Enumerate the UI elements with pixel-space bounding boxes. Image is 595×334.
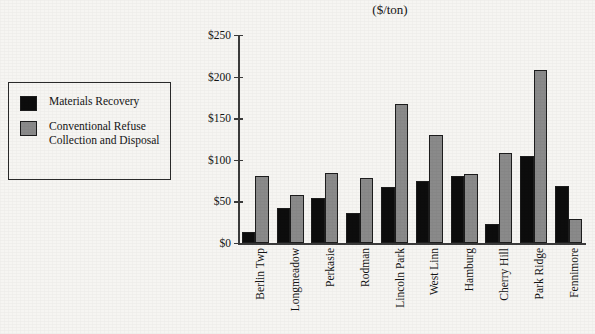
bar-group [377, 35, 412, 243]
legend-item-materials-recovery: Materials Recovery [20, 95, 165, 111]
x-category-label: Perkasie [324, 248, 336, 287]
bar-group [412, 35, 447, 243]
bar [485, 224, 499, 243]
x-category-label: Cherry Hill [498, 248, 510, 301]
bar [429, 135, 443, 243]
bar [242, 232, 256, 243]
chart-legend: Materials Recovery Conventional Refuse C… [8, 82, 171, 180]
y-tick-label: $50 [214, 195, 231, 207]
bar [277, 208, 291, 243]
bar [346, 213, 360, 243]
x-category-label: Park Ridge [533, 248, 545, 299]
bar [416, 181, 430, 243]
bar-group [273, 35, 308, 243]
x-category-label: Rodman [359, 248, 371, 287]
bar [534, 70, 548, 243]
bar [311, 198, 325, 243]
bar [499, 153, 513, 243]
bar [569, 219, 583, 243]
legend-item-conventional-refuse: Conventional Refuse Collection and Dispo… [20, 120, 165, 147]
bar [255, 176, 269, 243]
y-tick-mark [234, 243, 243, 244]
bar-group [238, 35, 273, 243]
bar [451, 176, 465, 243]
chart-canvas: ($/ton) Materials Recovery Conventional … [0, 0, 595, 334]
x-category-label: Longmeadow [289, 248, 301, 311]
x-category-label: Hamburg [463, 248, 475, 291]
y-tick-label: $200 [208, 71, 231, 83]
bar-group [551, 35, 586, 243]
bar [290, 195, 304, 243]
y-tick-label: $100 [208, 154, 231, 166]
y-tick-label: $250 [208, 29, 231, 41]
bar [464, 174, 478, 243]
bar [395, 104, 409, 243]
plot-area: $0$50$100$150$200$250 Berlin TwpLongmead… [238, 35, 586, 243]
bar [325, 173, 339, 243]
x-axis-line [238, 243, 586, 245]
bar [555, 186, 569, 243]
chart-subtitle: ($/ton) [300, 2, 480, 18]
bar-group [482, 35, 517, 243]
bar-group [342, 35, 377, 243]
bar-group [516, 35, 551, 243]
bar [520, 156, 534, 243]
bar-group [308, 35, 343, 243]
legend-label: Conventional Refuse Collection and Dispo… [49, 120, 165, 147]
bar-group [447, 35, 482, 243]
legend-swatch-gray-icon [20, 121, 37, 136]
legend-swatch-black-icon [20, 96, 37, 111]
y-tick-label: $0 [220, 237, 232, 249]
y-tick-label: $150 [208, 112, 231, 124]
bar [360, 178, 374, 243]
x-category-label: Lincoln Park [394, 248, 406, 308]
legend-label: Materials Recovery [49, 95, 165, 109]
x-category-label: Fennimore [568, 248, 580, 298]
x-category-label: Berlin Twp [254, 248, 266, 300]
x-category-label: West Linn [428, 248, 440, 295]
bar [381, 187, 395, 243]
